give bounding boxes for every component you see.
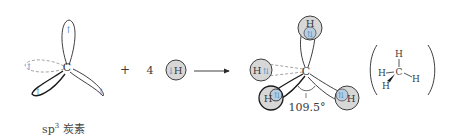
- struct-c: C: [396, 67, 403, 77]
- carbon-label: C: [302, 65, 310, 78]
- coefficient: 4: [147, 64, 154, 77]
- struct-h-wedge: H: [382, 81, 390, 91]
- methane-formation-diagram: ↑ ↑ ↑ ↑ C + 4 ↓ H H ⇅ H ⇅: [0, 0, 449, 139]
- carbon-label: C: [63, 61, 71, 74]
- caption-text: 炭素: [59, 123, 85, 136]
- struct-h-top: H: [395, 49, 403, 59]
- electron-pair-icon: ⇅: [338, 91, 345, 100]
- methane-orbitals: H ⇅ H ⇅ H ⇅ H ⇅ C 109.5°: [250, 16, 359, 114]
- electron-pair-icon: ⇅: [307, 30, 314, 39]
- sp3-carbon: ↑ ↑ ↑ ↑ C: [25, 20, 105, 97]
- left-parenthesis: [370, 45, 377, 95]
- h-label-lower-right: H: [347, 93, 356, 104]
- plus-sign: +: [120, 63, 130, 77]
- hydrogen-label: H: [174, 65, 183, 76]
- struct-h-left: H: [378, 68, 386, 78]
- caption-sp: sp: [42, 123, 55, 136]
- bond-angle-arc: [298, 86, 315, 91]
- bond-angle-label: 109.5°: [289, 101, 326, 114]
- electron-up-icon: ↑: [34, 87, 42, 97]
- sp3-carbon-caption: sp3 炭素: [42, 120, 85, 136]
- electron-pair-icon: ⇅: [274, 91, 281, 100]
- hydrogen-atom: ↓ H: [166, 60, 186, 80]
- struct-h-right: H: [412, 74, 420, 84]
- electron-up-icon: ↑: [97, 87, 105, 97]
- h-label-top: H: [306, 18, 315, 29]
- electron-up-icon: ↑: [25, 62, 33, 72]
- h-label-left: H: [253, 65, 262, 76]
- electron-up-icon: ↑: [65, 25, 73, 35]
- electron-pair-icon: ⇅: [263, 67, 270, 76]
- h-label-lower-left: H: [264, 93, 273, 104]
- structural-formula: H C H H H: [370, 45, 435, 95]
- right-parenthesis: [428, 45, 435, 95]
